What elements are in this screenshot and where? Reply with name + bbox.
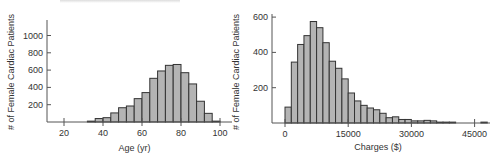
histogram-bar <box>317 28 323 123</box>
histogram-bar <box>399 119 405 123</box>
histogram-bar <box>373 110 379 123</box>
figure: 200400600800100020406080100Age (yr)# of … <box>0 0 500 164</box>
histogram-bar <box>336 68 342 123</box>
histogram-bar <box>285 107 291 123</box>
x-tick-label: 40 <box>98 128 108 138</box>
charges-histogram: 2004006000150003000045000Charges ($)# of… <box>231 12 490 152</box>
histogram-bar <box>197 101 205 122</box>
x-tick-label: 80 <box>176 128 186 138</box>
x-tick-label: 30000 <box>399 129 424 139</box>
histogram-bar <box>103 118 111 122</box>
histogram-bar <box>304 36 310 123</box>
histogram-bar <box>181 73 189 122</box>
histogram-bar <box>189 84 197 122</box>
histogram-bar <box>405 119 411 123</box>
x-axis-label: Age (yr) <box>118 143 150 153</box>
y-tick-label: 1000 <box>23 31 43 41</box>
histogram-bar <box>380 113 386 123</box>
histogram-bar <box>291 62 297 123</box>
histogram-bar <box>342 79 348 123</box>
y-tick-label: 400 <box>28 82 43 92</box>
histogram-bar <box>367 108 373 123</box>
x-tick-label: 100 <box>212 128 227 138</box>
x-tick-label: 0 <box>282 129 287 139</box>
y-axis-label: # of Female Cardiac Patients <box>6 13 16 130</box>
histogram-bar <box>361 105 367 123</box>
histogram-bar <box>126 106 134 122</box>
histogram-bar <box>392 117 398 123</box>
histogram-bar <box>165 65 173 122</box>
histogram-bar <box>329 61 335 123</box>
histogram-bar <box>323 43 329 123</box>
x-axis-label: Charges ($) <box>354 142 402 152</box>
y-axis-label: # of Female Cardiac Patients <box>231 13 241 130</box>
x-tick-label: 15000 <box>336 129 361 139</box>
histogram-bar <box>204 113 212 122</box>
y-tick-label: 600 <box>28 65 43 75</box>
histogram-bar <box>95 119 103 122</box>
histogram-bar <box>348 93 354 123</box>
age-histogram: 200400600800100020406080100Age (yr)# of … <box>6 13 232 153</box>
histogram-bar <box>158 71 166 122</box>
y-tick-label: 200 <box>253 83 268 93</box>
histogram-bar <box>111 113 119 122</box>
histogram-bar <box>173 64 181 122</box>
y-tick-label: 400 <box>253 47 268 57</box>
histogram-bar <box>386 118 392 123</box>
y-tick-label: 600 <box>253 12 268 22</box>
x-tick-label: 60 <box>137 128 147 138</box>
histogram-bar <box>310 22 316 123</box>
x-tick-label: 20 <box>59 128 69 138</box>
y-tick-label: 800 <box>28 48 43 58</box>
histogram-bar <box>298 44 304 123</box>
histogram-bar <box>134 99 142 122</box>
x-tick-label: 45000 <box>462 129 487 139</box>
histogram-bar <box>119 108 127 122</box>
histogram-bar <box>142 93 150 122</box>
y-tick-label: 200 <box>28 100 43 110</box>
histogram-bar <box>150 78 158 122</box>
histogram-bar <box>355 101 361 123</box>
